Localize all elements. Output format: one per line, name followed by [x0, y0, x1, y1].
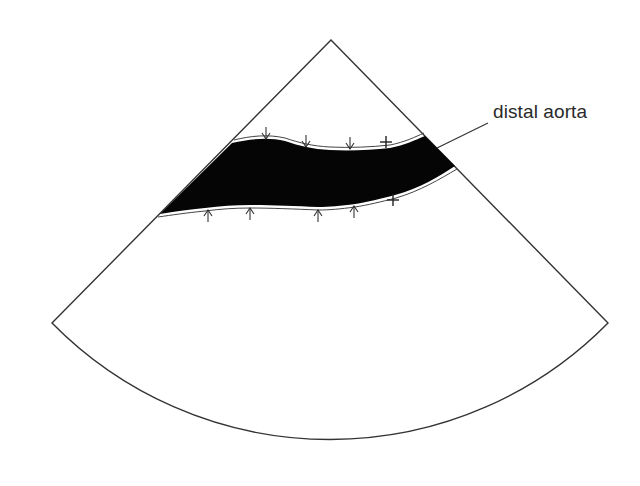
label-leader-line	[437, 123, 488, 148]
sector-outline	[52, 40, 608, 439]
distal-aorta-label: distal aorta	[493, 101, 587, 123]
ultrasound-sector-diagram	[0, 0, 640, 486]
